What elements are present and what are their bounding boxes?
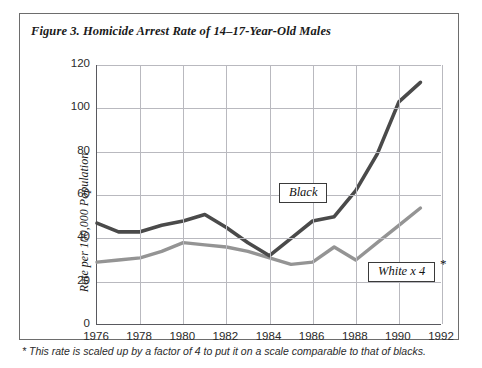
series-label-white: White x 4 xyxy=(368,262,435,282)
x-axis-tick-label: 1988 xyxy=(332,330,378,342)
y-axis-tick-labels: Rate per 100,000 Population 020406080100… xyxy=(46,65,90,325)
y-axis-tick-label: 20 xyxy=(50,274,90,286)
gridline-vertical xyxy=(226,65,227,324)
y-axis-tick-label: 60 xyxy=(50,187,90,199)
gridline-vertical xyxy=(183,65,184,324)
gridline-vertical xyxy=(140,65,141,324)
series-label-black: Black xyxy=(279,183,327,203)
x-axis-tick-label: 1980 xyxy=(159,330,205,342)
gridline-vertical xyxy=(270,65,271,324)
y-axis-tick-label: 0 xyxy=(50,317,90,329)
x-axis-tick-label: 1990 xyxy=(375,330,421,342)
gridline-vertical xyxy=(399,65,400,324)
gridline-vertical xyxy=(442,65,443,324)
x-axis-tick-label: 1986 xyxy=(289,330,335,342)
x-axis-tick-label: 1976 xyxy=(73,330,119,342)
x-axis-tick-label: 1982 xyxy=(202,330,248,342)
series-line-white xyxy=(97,208,420,264)
x-axis-tick-label: 1984 xyxy=(246,330,292,342)
gridline-vertical xyxy=(356,65,357,324)
x-axis-tick-label: 1978 xyxy=(116,330,162,342)
x-axis-tick-label: 1992 xyxy=(418,330,464,342)
figure-title: Figure 3. Homicide Arrest Rate of 14–17-… xyxy=(31,24,431,39)
y-axis-tick-label: 40 xyxy=(50,230,90,242)
y-axis-tick-label: 100 xyxy=(50,100,90,112)
y-axis-tick-label: 80 xyxy=(50,144,90,156)
plot-area xyxy=(96,65,441,325)
footnote-asterisk-marker: * xyxy=(440,256,447,272)
y-axis-tick-label: 120 xyxy=(50,57,90,69)
figure-container: Figure 3. Homicide Arrest Rate of 14–17-… xyxy=(0,0,482,368)
x-axis-tick-labels: 197619781980198219841986198819901992 xyxy=(96,330,442,346)
figure-footnote: * This rate is scaled up by a factor of … xyxy=(22,345,472,357)
